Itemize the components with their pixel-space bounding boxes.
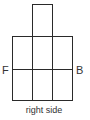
label-back: B [76, 64, 83, 76]
main-grid [13, 37, 73, 101]
label-front: F [2, 64, 9, 76]
main-grid-outline [13, 37, 73, 101]
caption: right side [26, 105, 63, 115]
top-cell-outline [33, 5, 53, 37]
top-cell [33, 5, 53, 37]
net-diagram: F B right side [0, 0, 90, 120]
